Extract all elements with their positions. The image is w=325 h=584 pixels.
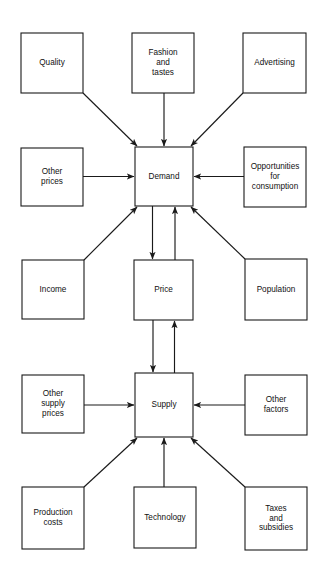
node-label-line: Income xyxy=(40,285,67,294)
node-label-other-prices: Otherprices xyxy=(41,167,63,186)
edge-production-costs-to-supply xyxy=(84,438,137,487)
node-label-line: Production xyxy=(33,508,73,517)
node-label-line: Advertising xyxy=(254,58,295,67)
node-label-line: consumption xyxy=(252,182,299,191)
node-label-line: factors xyxy=(264,405,289,414)
node-label-line: Other xyxy=(42,167,63,176)
node-supply[interactable]: Supply xyxy=(135,373,193,437)
node-label-other-supply-prices: Othersupplyprices xyxy=(41,390,66,418)
node-other-prices[interactable]: Otherprices xyxy=(21,148,83,206)
node-production-costs[interactable]: Productioncosts xyxy=(22,487,84,549)
node-label-demand: Demand xyxy=(149,172,180,181)
economics-flow-diagram: QualityFashionandtastesAdvertisingOtherp… xyxy=(0,0,325,584)
node-label-line: prices xyxy=(41,177,63,186)
node-opportunities[interactable]: Opportunitiesforconsumption xyxy=(244,147,306,207)
node-label-other-factors: Otherfactors xyxy=(264,395,289,414)
node-label-price: Price xyxy=(154,285,173,294)
edge-population-to-demand xyxy=(191,207,245,259)
node-label-quality: Quality xyxy=(39,58,65,67)
node-other-supply-prices[interactable]: Othersupplyprices xyxy=(22,375,84,433)
node-label-technology: Technology xyxy=(144,513,186,522)
node-label-supply: Supply xyxy=(151,400,177,409)
node-label-line: supply xyxy=(41,399,66,408)
node-technology[interactable]: Technology xyxy=(134,487,196,548)
node-label-line: Technology xyxy=(144,513,186,522)
node-label-line: Supply xyxy=(151,400,177,409)
node-label-line: prices xyxy=(42,409,64,418)
node-taxes[interactable]: Taxesandsubsidies xyxy=(245,487,307,550)
node-price[interactable]: Price xyxy=(134,260,193,320)
node-label-line: Other xyxy=(43,390,64,399)
edge-advertising-to-demand xyxy=(191,93,243,146)
node-label-line: Price xyxy=(154,285,173,294)
node-advertising[interactable]: Advertising xyxy=(243,33,306,93)
node-label-line: costs xyxy=(43,518,62,527)
node-label-population: Population xyxy=(257,285,296,294)
node-label-line: Quality xyxy=(39,58,65,67)
edge-income-to-demand xyxy=(84,207,137,260)
node-label-line: Opportunities xyxy=(251,163,300,172)
edge-taxes-to-supply xyxy=(191,438,245,487)
node-quality[interactable]: Quality xyxy=(21,33,83,93)
node-label-line: Population xyxy=(257,285,296,294)
edge-quality-to-demand xyxy=(83,93,137,146)
node-label-advertising: Advertising xyxy=(254,58,295,67)
node-fashion[interactable]: Fashionandtastes xyxy=(132,33,194,93)
node-population[interactable]: Population xyxy=(245,259,307,320)
node-income[interactable]: Income xyxy=(22,260,84,319)
diagram-canvas: QualityFashionandtastesAdvertisingOtherp… xyxy=(0,0,325,584)
node-demand[interactable]: Demand xyxy=(135,147,193,206)
node-label-line: for xyxy=(270,172,280,181)
node-label-line: Demand xyxy=(149,172,180,181)
node-label-line: Other xyxy=(266,395,287,404)
node-label-line: and xyxy=(156,58,170,67)
node-label-line: tastes xyxy=(152,68,174,77)
node-label-line: Taxes xyxy=(265,504,286,513)
node-label-line: and xyxy=(269,514,283,523)
node-label-income: Income xyxy=(40,285,67,294)
node-other-factors[interactable]: Otherfactors xyxy=(245,375,307,435)
node-label-line: Fashion xyxy=(148,49,178,58)
node-label-line: subsidies xyxy=(259,523,293,532)
